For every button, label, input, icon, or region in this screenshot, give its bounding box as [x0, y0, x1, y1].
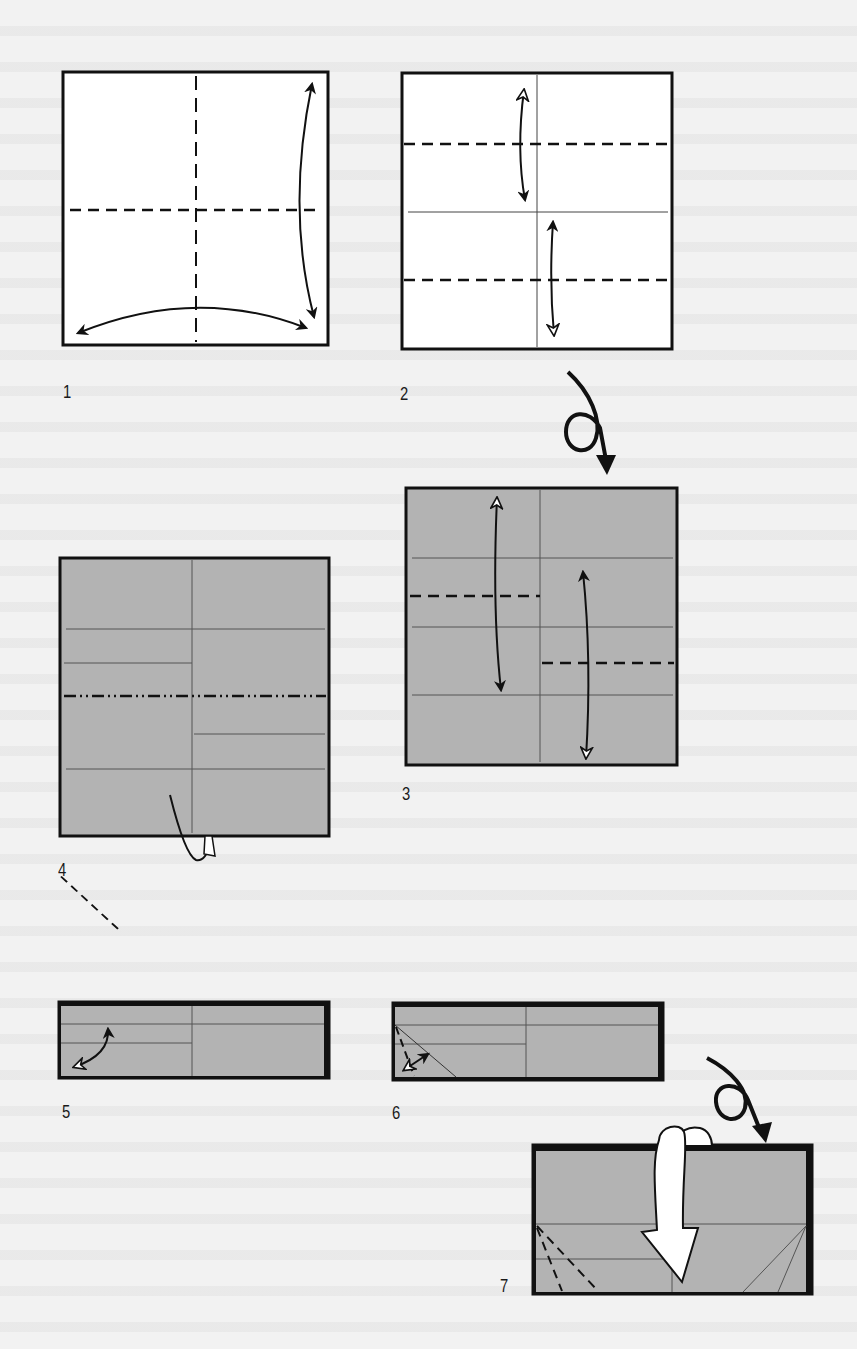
step-number-3: 3 [402, 783, 410, 805]
step-3-diagram [406, 488, 677, 765]
step-1-diagram [63, 72, 328, 345]
step-7-diagram [533, 1126, 812, 1294]
step-5-diagram [59, 877, 329, 1079]
step-number-2: 2 [400, 383, 408, 405]
step-2-diagram [402, 73, 672, 349]
step-number-6: 6 [392, 1102, 400, 1124]
turn-over-icon [566, 372, 616, 475]
step-6-diagram [393, 1003, 663, 1080]
step-number-7: 7 [500, 1275, 508, 1297]
step-number-1: 1 [63, 381, 71, 403]
step-number-5: 5 [62, 1101, 70, 1123]
step-number-4: 4 [58, 859, 66, 881]
step-4-diagram [60, 558, 329, 860]
diagonal-valley-fold-icon [61, 877, 122, 933]
turn-over-icon [707, 1058, 772, 1143]
origami-diagram [0, 0, 857, 1349]
